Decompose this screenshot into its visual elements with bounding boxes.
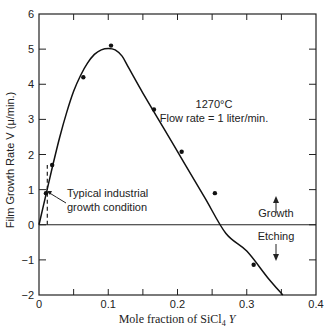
x-tick-label: 0.1 [101,298,116,310]
growth-rate-chart: 00.10.20.30.4−2−10123456 1270°C Flow rat… [0,0,328,329]
x-tick-label: 0 [36,298,42,310]
data-point [81,75,85,79]
y-tick-label: −2 [21,289,34,301]
axis-ticks [39,14,316,295]
industrial-annotation-line2: growth condition [67,201,147,213]
etching-label: Etching [258,230,295,242]
tick-labels: 00.10.20.30.4−2−10123456 [21,8,323,310]
fitted-curve [39,48,283,295]
data-points [44,43,256,267]
y-tick-label: 4 [28,78,34,90]
growth-label: Growth [258,207,293,219]
y-axis-label: Film Growth Rate V (μ/min.) [4,92,16,229]
y-tick-label: 2 [28,149,34,161]
y-tick-label: 6 [28,8,34,20]
y-tick-label: 5 [28,43,34,55]
y-tick-label: 0 [28,219,34,231]
plot-frame [39,14,316,295]
industrial-annotation-line1: Typical industrial [67,187,148,199]
data-point [50,163,54,167]
growth-arrow-head [273,196,279,203]
data-point [152,107,156,111]
x-tick-label: 0.3 [239,298,254,310]
etching-arrow-head [273,254,279,261]
industrial-annotation-arrow [48,192,66,203]
temperature-annotation: 1270°C [196,98,233,110]
data-point [179,149,183,153]
x-tick-label: 0.2 [170,298,185,310]
data-point [251,263,255,267]
x-tick-label: 0.4 [308,298,323,310]
data-point [109,43,113,47]
y-tick-label: 3 [28,113,34,125]
data-point [213,191,217,195]
x-axis-label: Mole fraction of SiCl4 Y [119,312,237,328]
flow-rate-annotation: Flow rate = 1 liter/min. [160,112,269,124]
y-tick-label: −1 [21,254,34,266]
y-tick-label: 1 [28,184,34,196]
